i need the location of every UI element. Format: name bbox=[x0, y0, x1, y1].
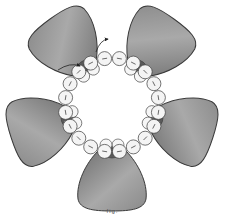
bead-ring bbox=[59, 52, 166, 159]
beaded-flower-diagram bbox=[0, 0, 225, 221]
thread-arrow-2 bbox=[96, 39, 108, 52]
petals-group bbox=[1, 0, 224, 211]
figure-caption: fig. bbox=[0, 208, 225, 214]
